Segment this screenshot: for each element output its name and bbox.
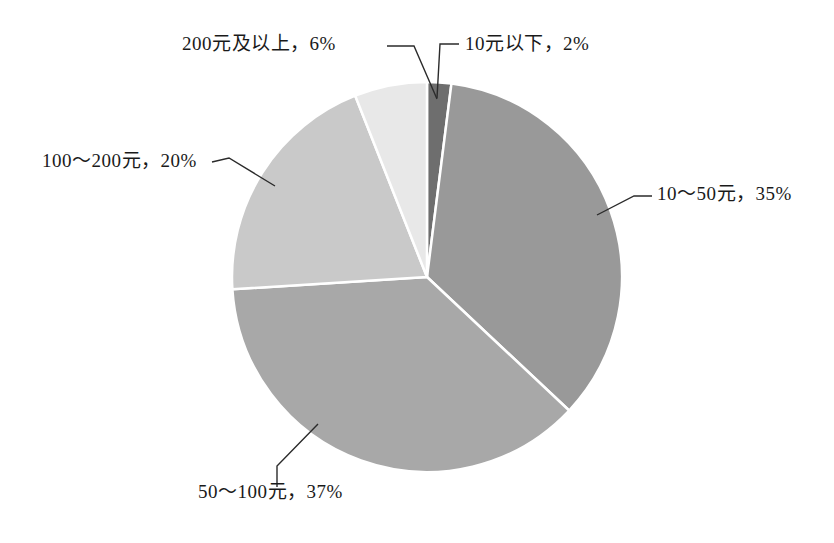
- pie-chart-canvas: [0, 0, 834, 543]
- pie-chart: 200元及以上，6% 10元以下，2% 100～200元，20% 10～50元，…: [0, 0, 834, 543]
- pie-label-50-100: 50～100元，37%: [198, 481, 343, 504]
- pie-label-200-plus: 200元及以上，6%: [182, 33, 336, 56]
- pie-label-10-50: 10～50元，35%: [657, 183, 792, 206]
- pie-label-10-under: 10元以下，2%: [465, 33, 589, 56]
- pie-slices: [232, 82, 622, 472]
- pie-label-100-200: 100～200元，20%: [42, 150, 197, 173]
